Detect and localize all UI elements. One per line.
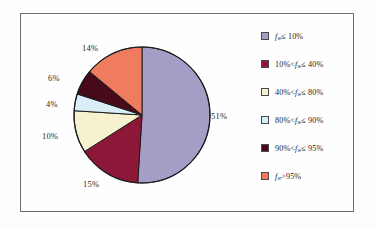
pie-label-4: 4% (46, 99, 58, 109)
legend-label-gt-95: fw>95% (275, 172, 301, 181)
pie-label-14: 14% (82, 43, 98, 53)
figure-container: 51% 15% 10% 4% 6% 14% fw≤ 10%10%<fw≤ 40%… (0, 0, 377, 229)
legend-item-90-to-95[interactable]: 90%<fw≤ 95% (261, 142, 353, 154)
pie-label-51: 51% (211, 111, 227, 121)
pie-chart (60, 33, 224, 197)
pie-label-6: 6% (48, 73, 60, 83)
legend-label-80-to-90: 80%<fw≤ 90% (275, 116, 323, 125)
legend-swatch-f-le-10 (261, 32, 269, 40)
legend-swatch-90-to-95 (261, 144, 269, 152)
legend-swatch-gt-95 (261, 172, 269, 180)
legend-item-80-to-90[interactable]: 80%<fw≤ 90% (261, 114, 353, 126)
pie-label-15: 15% (83, 179, 99, 189)
pie-svg (60, 33, 224, 197)
legend-label-40-to-80: 40%<fw≤ 80% (275, 88, 323, 97)
legend-item-40-to-80[interactable]: 40%<fw≤ 80% (261, 86, 353, 98)
legend-swatch-80-to-90 (261, 116, 269, 124)
pie-slice-group (74, 47, 210, 183)
legend-item-10-to-40[interactable]: 10%<fw≤ 40% (261, 58, 353, 70)
pie-label-10: 10% (42, 131, 58, 141)
pie-slice-f-le-10 (138, 47, 210, 183)
chart-legend: fw≤ 10%10%<fw≤ 40%40%<fw≤ 80%80%<fw≤ 90%… (261, 30, 353, 182)
legend-label-90-to-95: 90%<fw≤ 95% (275, 144, 323, 153)
legend-swatch-40-to-80 (261, 88, 269, 96)
legend-swatch-10-to-40 (261, 60, 269, 68)
legend-label-f-le-10: fw≤ 10% (275, 32, 303, 41)
legend-label-10-to-40: 10%<fw≤ 40% (275, 60, 323, 69)
legend-item-gt-95[interactable]: fw>95% (261, 170, 353, 182)
legend-item-f-le-10[interactable]: fw≤ 10% (261, 30, 353, 42)
